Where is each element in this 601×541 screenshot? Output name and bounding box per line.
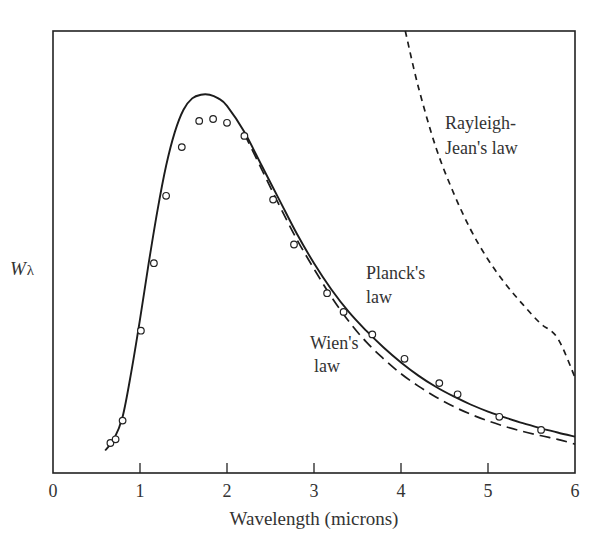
rayleigh-jeans-curve	[405, 31, 575, 378]
x-tick-label-6: 6	[571, 482, 580, 500]
data-point	[538, 427, 545, 434]
y-axis-label-subscript: λ	[27, 262, 34, 278]
x-axis-ticks	[140, 463, 488, 473]
rayleigh-jeans-label-line1: Rayleigh-	[445, 114, 516, 132]
data-point	[369, 331, 376, 338]
wien-label-line2: law	[314, 357, 340, 375]
data-point	[112, 436, 119, 443]
y-axis-label-main: W	[10, 258, 26, 279]
data-point	[163, 193, 170, 200]
x-tick-label-5: 5	[484, 482, 493, 500]
wien-label-line1: Wien's	[310, 334, 359, 352]
x-tick-label-4: 4	[397, 482, 406, 500]
data-point	[270, 196, 277, 203]
x-tick-label-3: 3	[310, 482, 319, 500]
data-point	[436, 380, 443, 387]
data-point	[496, 414, 503, 421]
x-axis-label: Wavelength (microns)	[230, 508, 399, 530]
planck-label-line2: law	[366, 288, 392, 306]
data-point	[324, 290, 331, 297]
rayleigh-jeans-label-line2: Jean's law	[445, 139, 518, 157]
data-point	[454, 391, 461, 398]
plot-frame	[53, 31, 575, 473]
data-point	[241, 133, 248, 140]
data-point	[210, 116, 217, 123]
x-tick-label-2: 2	[223, 482, 232, 500]
data-point	[151, 260, 158, 267]
data-point	[340, 309, 347, 316]
wien-curve	[244, 134, 575, 444]
x-tick-label-1: 1	[136, 482, 145, 500]
chart-canvas	[0, 0, 601, 541]
y-axis-label: Wλ	[10, 258, 34, 280]
x-tick-label-0: 0	[49, 482, 58, 500]
data-point	[401, 356, 408, 363]
data-point	[196, 118, 203, 125]
data-point	[179, 144, 186, 151]
data-point	[291, 241, 298, 248]
planck-label-line1: Planck's	[366, 264, 425, 282]
data-point	[138, 327, 145, 334]
data-point	[224, 120, 231, 127]
data-point	[119, 417, 126, 424]
